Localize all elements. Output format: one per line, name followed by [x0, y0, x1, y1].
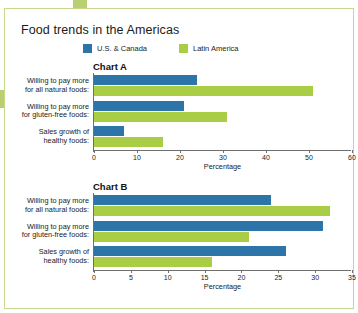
x-axis-title: Percentage: [204, 282, 241, 291]
category-label-row-3: Sales growth ofhealthy foods:: [39, 248, 89, 265]
page-title: Food trends in the Americas: [21, 23, 179, 37]
x-tick-0: [94, 150, 95, 153]
bar-us-canada-row-3: [94, 126, 124, 136]
category-label-row-2: Willing to pay morefor gluten-free foods…: [22, 223, 89, 240]
x-tick-label-10: 10: [133, 154, 141, 161]
bar-us-canada-row-1: [94, 75, 197, 85]
x-tick-50: [309, 150, 310, 153]
category-label-row-1: Willing to pay morefor all natural foods…: [25, 77, 89, 94]
chart-a-plot-area: 0102030405060Percentage: [93, 73, 351, 152]
chart-page: Food trends in the Americas U.S. & Canad…: [0, 0, 358, 313]
chart-b-category-labels: Willing to pay morefor all natural foods…: [13, 193, 91, 270]
chart-b-plot-area: 05101520253035Percentage: [93, 193, 351, 272]
legend-swatch-blue-icon: [83, 44, 92, 53]
x-tick-40: [266, 150, 267, 153]
x-tick-label-0: 0: [92, 274, 96, 281]
x-tick-label-15: 15: [201, 274, 209, 281]
x-tick-label-20: 20: [238, 274, 246, 281]
bar-us-canada-row-1: [94, 195, 271, 205]
legend-label-latin-america: Latin America: [193, 44, 238, 53]
content-frame: Food trends in the Americas U.S. & Canad…: [4, 8, 354, 309]
legend-item-latin-america: Latin America: [179, 44, 238, 53]
x-tick-20: [241, 270, 242, 273]
x-tick-35: [352, 270, 353, 273]
legend-swatch-green-icon: [179, 44, 188, 53]
x-tick-15: [205, 270, 206, 273]
legend-label-us-canada: U.S. & Canada: [97, 44, 147, 53]
x-tick-20: [180, 150, 181, 153]
x-tick-label-30: 30: [311, 274, 319, 281]
x-tick-10: [168, 270, 169, 273]
bar-us-canada-row-2: [94, 221, 323, 231]
x-tick-label-5: 5: [129, 274, 133, 281]
x-axis-title: Percentage: [204, 162, 241, 171]
chart-a-x-axis: 0102030405060Percentage: [94, 150, 351, 151]
x-tick-label-10: 10: [164, 274, 172, 281]
legend-item-us-canada: U.S. & Canada: [83, 44, 147, 53]
x-tick-30: [315, 270, 316, 273]
chart-a-category-labels: Willing to pay morefor all natural foods…: [13, 73, 91, 150]
bar-latin-america-row-1: [94, 86, 313, 96]
x-tick-5: [131, 270, 132, 273]
category-label-row-3: Sales growth ofhealthy foods:: [39, 128, 89, 145]
bar-latin-america-row-2: [94, 112, 227, 122]
category-label-row-1: Willing to pay morefor all natural foods…: [25, 197, 89, 214]
x-tick-label-20: 20: [176, 154, 184, 161]
x-tick-10: [137, 150, 138, 153]
bar-us-canada-row-2: [94, 101, 184, 111]
x-tick-label-25: 25: [274, 274, 282, 281]
x-tick-label-40: 40: [262, 154, 270, 161]
chart-b-title: Chart B: [93, 181, 127, 192]
chart-legend: U.S. & Canada Latin America: [83, 44, 238, 53]
x-tick-label-35: 35: [348, 274, 356, 281]
bar-latin-america-row-3: [94, 257, 212, 267]
x-tick-30: [223, 150, 224, 153]
bar-latin-america-row-1: [94, 206, 330, 216]
chart-b-x-axis: 05101520253035Percentage: [94, 270, 351, 271]
x-tick-label-0: 0: [92, 154, 96, 161]
bar-latin-america-row-3: [94, 137, 163, 147]
bar-us-canada-row-3: [94, 246, 286, 256]
x-tick-25: [278, 270, 279, 273]
x-tick-label-60: 60: [348, 154, 356, 161]
x-tick-0: [94, 270, 95, 273]
category-label-row-2: Willing to pay morefor gluten-free foods…: [22, 103, 89, 120]
chart-a-title: Chart A: [93, 61, 127, 72]
x-tick-label-30: 30: [219, 154, 227, 161]
bar-latin-america-row-2: [94, 232, 249, 242]
x-tick-label-50: 50: [305, 154, 313, 161]
x-tick-60: [352, 150, 353, 153]
